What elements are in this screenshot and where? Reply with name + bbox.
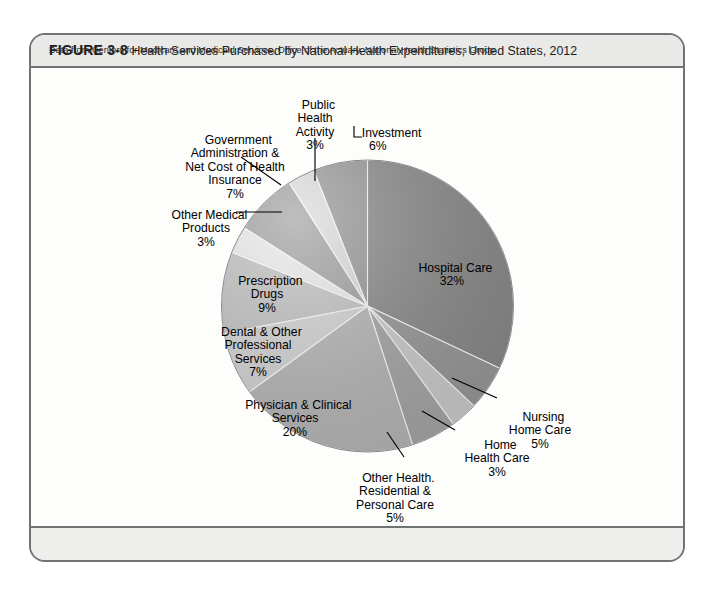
source-note: Data from Centers for Medicare and Medic… [49,45,498,55]
label-prescription-drugs: PrescriptionDrugs9% [224,261,310,315]
label-home-health-care: HomeHealth Care3% [460,425,534,479]
label-other-medical-products: Other MedicalProducts3% [153,195,259,249]
label-government-administration: GovernmentAdministration &Net Cost of He… [168,120,302,202]
figure-footer-band [31,526,683,560]
label-investment: Investment6% [355,113,445,154]
label-dental-professional-services: Dental & OtherProfessionalServices7% [206,312,310,380]
label-other-health-residential: Other Health.Residential &Personal Care5… [336,458,454,526]
label-hospital-care: Hospital Care32% [400,248,504,289]
label-physician-clinical-services: Physician & ClinicalServices20% [228,385,362,439]
